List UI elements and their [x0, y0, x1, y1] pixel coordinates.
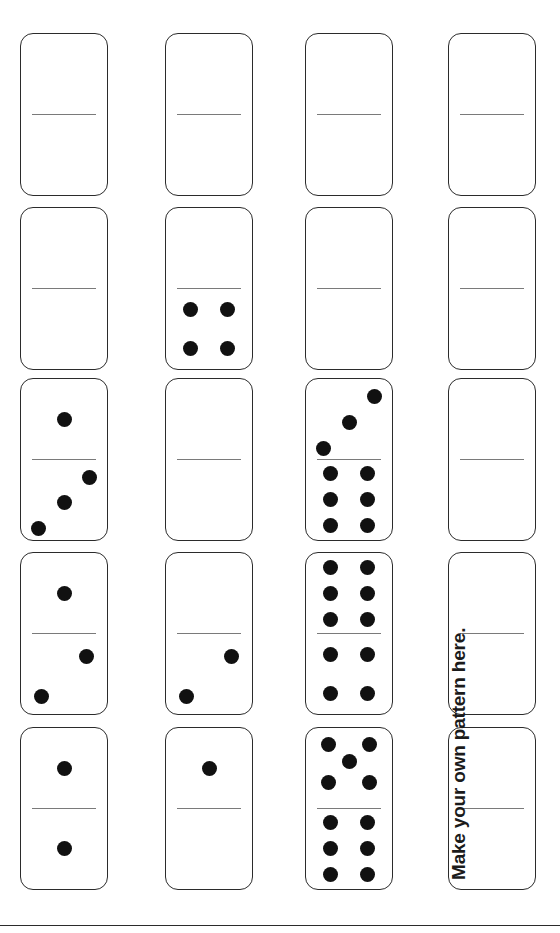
- pip: [323, 518, 338, 533]
- domino-half-bottom: [306, 289, 392, 370]
- domino-half-top: [306, 34, 392, 115]
- pip: [57, 586, 72, 601]
- domino-half-bottom: [166, 115, 252, 196]
- domino-half-bottom: [166, 460, 252, 541]
- domino-c2-r4[interactable]: [165, 552, 253, 715]
- domino-c2-r3[interactable]: [165, 378, 253, 541]
- domino-half-top: [21, 379, 107, 460]
- pip: [323, 867, 338, 882]
- pip: [34, 689, 49, 704]
- pip: [360, 867, 375, 882]
- domino-half-bottom: [21, 115, 107, 196]
- domino-c4-r3[interactable]: [448, 378, 536, 541]
- pip: [323, 466, 338, 481]
- pip: [367, 389, 382, 404]
- domino-half-top: [166, 553, 252, 634]
- pip: [323, 815, 338, 830]
- pip: [360, 815, 375, 830]
- domino-half-top: [21, 208, 107, 289]
- pip: [360, 560, 375, 575]
- domino-half-top: [166, 208, 252, 289]
- pip: [321, 775, 336, 790]
- domino-half-bottom: [449, 460, 535, 541]
- pip: [316, 441, 331, 456]
- pip: [360, 518, 375, 533]
- domino-half-top: [449, 379, 535, 460]
- domino-half-bottom: [449, 115, 535, 196]
- domino-grid: [0, 0, 560, 910]
- domino-c1-r2[interactable]: [20, 207, 108, 370]
- domino-half-top: [449, 553, 535, 634]
- pip: [79, 649, 94, 664]
- pip: [342, 415, 357, 430]
- pip: [362, 737, 377, 752]
- pip: [82, 470, 97, 485]
- pip: [360, 841, 375, 856]
- pip: [57, 761, 72, 776]
- domino-half-bottom: [166, 289, 252, 370]
- pip: [202, 761, 217, 776]
- domino-half-bottom: [449, 289, 535, 370]
- pip: [323, 586, 338, 601]
- pip: [360, 492, 375, 507]
- pip: [360, 612, 375, 627]
- domino-c3-r1[interactable]: [305, 33, 393, 196]
- pip: [323, 686, 338, 701]
- pip: [57, 495, 72, 510]
- pip: [220, 302, 235, 317]
- domino-half-top: [166, 728, 252, 809]
- pip: [183, 341, 198, 356]
- domino-half-top: [306, 553, 392, 634]
- domino-c3-r2[interactable]: [305, 207, 393, 370]
- domino-half-bottom: [21, 460, 107, 541]
- domino-half-top: [21, 728, 107, 809]
- domino-c3-r5[interactable]: [305, 727, 393, 890]
- pip: [220, 341, 235, 356]
- domino-half-bottom: [21, 289, 107, 370]
- pip: [323, 560, 338, 575]
- worksheet-page: Make your own pattern here.: [0, 0, 560, 933]
- domino-c2-r1[interactable]: [165, 33, 253, 196]
- domino-half-top: [306, 208, 392, 289]
- domino-half-top: [306, 379, 392, 460]
- domino-c2-r2[interactable]: [165, 207, 253, 370]
- pip: [323, 647, 338, 662]
- domino-half-bottom: [306, 115, 392, 196]
- pip: [321, 737, 336, 752]
- domino-half-bottom: [21, 809, 107, 890]
- pip: [179, 689, 194, 704]
- domino-half-bottom: [21, 634, 107, 715]
- domino-c2-r5[interactable]: [165, 727, 253, 890]
- domino-c1-r5[interactable]: [20, 727, 108, 890]
- domino-c1-r1[interactable]: [20, 33, 108, 196]
- domino-c1-r3[interactable]: [20, 378, 108, 541]
- domino-half-bottom: [306, 809, 392, 890]
- pip: [362, 775, 377, 790]
- pip: [183, 302, 198, 317]
- pip: [360, 466, 375, 481]
- domino-half-top: [21, 34, 107, 115]
- pip: [57, 841, 72, 856]
- pip: [323, 492, 338, 507]
- domino-c1-r4[interactable]: [20, 552, 108, 715]
- domino-c4-r1[interactable]: [448, 33, 536, 196]
- pip: [360, 586, 375, 601]
- domino-c3-r3[interactable]: [305, 378, 393, 541]
- domino-half-top: [166, 34, 252, 115]
- domino-half-top: [306, 728, 392, 809]
- pip: [323, 612, 338, 627]
- bottom-divider-rule: [0, 925, 560, 926]
- pip: [323, 841, 338, 856]
- pip: [360, 686, 375, 701]
- pip: [31, 521, 46, 536]
- make-your-own-pattern-caption: Make your own pattern here.: [448, 628, 470, 880]
- domino-half-top: [449, 34, 535, 115]
- domino-half-top: [21, 553, 107, 634]
- pip: [360, 647, 375, 662]
- domino-c4-r2[interactable]: [448, 207, 536, 370]
- domino-c3-r4[interactable]: [305, 552, 393, 715]
- domino-half-bottom: [166, 809, 252, 890]
- pip: [224, 649, 239, 664]
- domino-half-top: [449, 208, 535, 289]
- pip: [57, 412, 72, 427]
